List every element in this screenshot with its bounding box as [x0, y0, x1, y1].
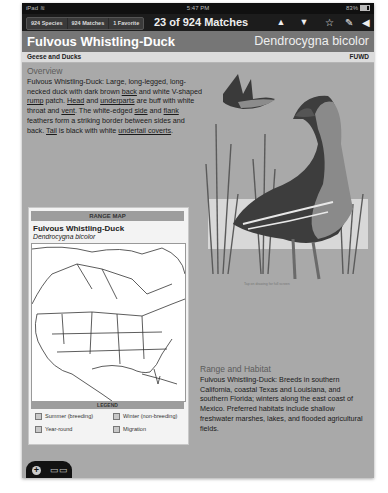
- range-habitat-heading: Range and Habitat: [200, 364, 370, 374]
- battery-icon: [360, 5, 370, 11]
- range-map-common-name: Fulvous Whistling-Duck: [33, 224, 124, 233]
- species-illustration[interactable]: [203, 74, 373, 284]
- overview-heading: Overview: [27, 66, 202, 76]
- legend-winter: Winter (non-breeding): [113, 413, 177, 420]
- legend-swatch-summer: [35, 413, 42, 420]
- family-name: Geese and Ducks: [27, 52, 81, 62]
- scientific-name: Dendrocygna bicolor: [254, 31, 369, 52]
- status-bar: iPad ≋ 5:47 PM 83%: [22, 3, 374, 14]
- add-icon[interactable]: +: [32, 466, 41, 475]
- link-vent[interactable]: vent: [61, 106, 75, 115]
- clock: 5:47 PM: [22, 3, 374, 14]
- range-habitat-text: Fulvous Whistling-Duck: Breeds in southe…: [200, 375, 370, 433]
- filter-segmented-control: 924 Species 924 Matches 1 Favorite: [26, 17, 144, 30]
- link-undertail-coverts[interactable]: undertail coverts: [118, 126, 171, 135]
- previous-arrow-icon[interactable]: ▲: [274, 14, 288, 31]
- link-flank[interactable]: flank: [164, 106, 179, 115]
- sound-speaker-icon[interactable]: ◀: [359, 14, 373, 31]
- range-map-image[interactable]: [31, 243, 186, 402]
- link-underparts[interactable]: underparts: [100, 96, 134, 105]
- common-name: Fulvous Whistling-Duck: [27, 31, 175, 52]
- legend-heading: LEGEND: [31, 401, 184, 409]
- range-map-panel: RANGE MAP Fulvous Whistling-Duck Dendroc…: [28, 207, 189, 445]
- match-count: 23 of 924 Matches: [154, 14, 248, 31]
- illustration-caption: Tap on drawing for full screen: [244, 282, 290, 286]
- legend-swatch-migration: [113, 426, 120, 433]
- overview-text: Fulvous Whistling-Duck: Large, long-legg…: [27, 77, 202, 135]
- overview-section: Overview Fulvous Whistling-Duck: Large, …: [27, 66, 202, 135]
- next-arrow-icon[interactable]: ▼: [297, 14, 311, 31]
- range-map-heading: RANGE MAP: [31, 211, 184, 221]
- bottom-tab: + ▭▭: [26, 461, 72, 478]
- matches-segment[interactable]: 924 Matches: [68, 18, 110, 29]
- toolbar: 924 Species 924 Matches 1 Favorite 23 of…: [22, 14, 374, 31]
- edit-note-icon[interactable]: ✎: [342, 14, 356, 31]
- legend-swatch-winter: [113, 413, 120, 420]
- family-bar: Geese and Ducks FUWD: [22, 52, 374, 63]
- favorite-star-icon[interactable]: ☆: [322, 14, 336, 31]
- battery-indicator: 83%: [346, 3, 370, 14]
- legend-summer: Summer (breeding): [35, 413, 93, 420]
- favorites-segment[interactable]: 1 Favorite: [109, 18, 143, 29]
- legend-year-round: Year-round: [35, 426, 72, 433]
- link-head[interactable]: Head: [67, 96, 84, 105]
- species-code: FUWD: [350, 52, 370, 62]
- range-habitat-section: Range and Habitat Fulvous Whistling-Duck…: [200, 364, 370, 433]
- range-map-scientific-name: Dendrocygna bicolor: [33, 233, 95, 240]
- app-frame: iPad ≋ 5:47 PM 83% 924 Species 924 Match…: [22, 3, 374, 478]
- species-segment[interactable]: 924 Species: [27, 18, 68, 29]
- link-back[interactable]: back: [122, 87, 137, 96]
- book-icon[interactable]: ▭▭: [50, 464, 68, 476]
- legend-swatch-year-round: [35, 426, 42, 433]
- legend-migration: Migration: [113, 426, 146, 433]
- species-title-bar: Fulvous Whistling-Duck Dendrocygna bicol…: [22, 31, 374, 52]
- link-tail[interactable]: Tail: [46, 126, 57, 135]
- link-side[interactable]: side: [134, 106, 147, 115]
- link-rump[interactable]: rump: [27, 96, 43, 105]
